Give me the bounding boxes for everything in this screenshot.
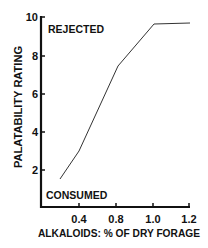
y-tick-label: 2 [32,164,38,176]
y-tick-label: 8 [32,50,38,62]
palatability-line [60,23,190,179]
palatability-chart: 10 8 6 4 2 0.4 0.8 1.0 1.2 ALKALOIDS: % … [0,0,208,248]
x-tick-label: 0.8 [108,213,123,225]
consumed-annotation: CONSUMED [46,189,108,201]
y-axis-title: PALATABILITY RATING [12,46,24,168]
y-tick-label: 6 [32,88,38,100]
x-tick-label: 0.4 [71,213,87,225]
x-tick-label: 1.0 [145,213,160,225]
x-axis-title: ALKALOIDS: % OF DRY FORAGE [38,227,200,239]
y-tick-label: 10 [26,11,38,23]
rejected-annotation: REJECTED [48,23,104,35]
y-tick-label: 4 [32,126,39,138]
x-tick-label: 1.2 [181,213,196,225]
